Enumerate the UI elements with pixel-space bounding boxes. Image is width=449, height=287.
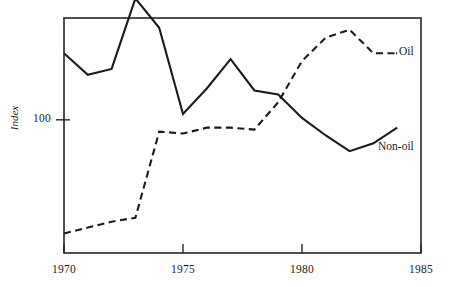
series-label-non-oil: Non-oil [378, 140, 414, 152]
chart-figure: Index 100 1970 1975 1980 1985 Oil Non-oi… [0, 0, 449, 287]
x-tick-label-1985: 1985 [409, 263, 433, 275]
x-tick-label-1975: 1975 [171, 263, 195, 275]
x-tick-label-1980: 1980 [290, 263, 314, 275]
y-tick-label-100: 100 [33, 112, 51, 124]
series-label-oil: Oil [399, 45, 414, 57]
y-axis-title: Index [8, 106, 20, 130]
x-tick-label-1970: 1970 [52, 263, 76, 275]
